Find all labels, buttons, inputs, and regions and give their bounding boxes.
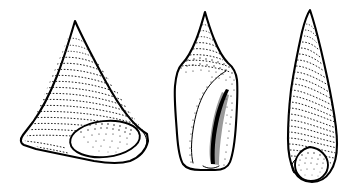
- shell-1-group: [21, 21, 148, 163]
- shell-plate-svg: [0, 0, 355, 191]
- shell-2-group: [175, 12, 238, 170]
- illustration-plate: conical top-shell cone shell elongate tu…: [0, 0, 355, 191]
- shell-3-aperture: [295, 147, 328, 181]
- shell-3-group: [288, 10, 337, 182]
